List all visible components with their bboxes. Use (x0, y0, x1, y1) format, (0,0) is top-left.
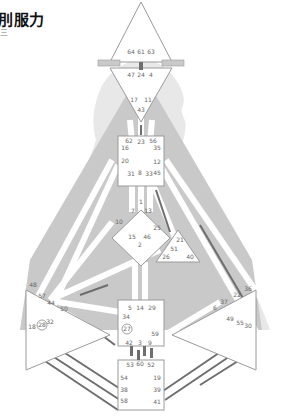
gate-3: 3 (138, 339, 142, 346)
gate-54: 54 (120, 374, 128, 381)
gate-60: 60 (136, 360, 144, 367)
gate-29: 29 (148, 304, 156, 311)
gate-10: 10 (115, 218, 123, 225)
head-ajna-bridge-right (162, 60, 184, 66)
head-ajna-bridge-left (98, 60, 120, 66)
gate-42: 42 (125, 339, 133, 346)
gate-2: 2 (138, 241, 142, 248)
gate-36: 36 (244, 285, 252, 292)
gate-52: 52 (147, 361, 155, 368)
gate-48: 48 (29, 281, 37, 288)
gate-12: 12 (153, 158, 161, 165)
gate-46: 46 (143, 233, 151, 240)
gate-14: 14 (136, 304, 144, 311)
gate-27: 27 (123, 325, 131, 332)
gate-41: 41 (153, 398, 161, 405)
gate-39: 39 (153, 386, 161, 393)
gate-31: 31 (127, 170, 135, 177)
gate-40: 40 (186, 253, 194, 260)
gate-34: 34 (122, 313, 130, 320)
gate-50: 50 (60, 305, 68, 312)
gate-bar (139, 62, 143, 70)
gate-8: 8 (138, 169, 142, 176)
gate-4: 4 (149, 71, 153, 78)
gate-57: 57 (38, 292, 46, 299)
gate-1: 1 (139, 198, 143, 205)
gate-59: 59 (151, 330, 159, 337)
gate-16: 16 (121, 144, 129, 151)
gate-18: 18 (28, 323, 36, 330)
gate-26: 26 (162, 253, 170, 260)
gate-61: 61 (137, 48, 145, 55)
gate-43: 43 (137, 106, 145, 113)
gate-5: 5 (128, 304, 132, 311)
gate-23: 23 (137, 138, 145, 145)
gate-63: 63 (147, 48, 155, 55)
gate-22: 22 (233, 291, 241, 298)
gate-20: 20 (121, 157, 129, 164)
gate-49: 49 (226, 315, 234, 322)
gate-6: 6 (213, 304, 217, 311)
gate-15: 15 (128, 233, 136, 240)
gate-64: 64 (127, 48, 135, 55)
bodygraph: 64 61 63 47 24 4 17 11 43 62 23 56 16 35… (0, 0, 282, 418)
gate-33: 33 (145, 170, 153, 177)
gate-62: 62 (125, 137, 133, 144)
sacral-root-bars (130, 346, 153, 360)
gate-37: 37 (220, 298, 228, 305)
gate-11: 11 (144, 96, 152, 103)
gate-19: 19 (153, 374, 161, 381)
gate-30: 30 (244, 322, 252, 329)
gate-51: 51 (170, 245, 178, 252)
gate-24: 24 (137, 71, 145, 78)
gate-25: 25 (153, 224, 161, 231)
gate-21: 21 (176, 236, 184, 243)
gate-53: 53 (126, 361, 134, 368)
gate-9: 9 (148, 339, 152, 346)
gate-7: 7 (131, 207, 135, 214)
gate-35: 35 (153, 144, 161, 151)
gate-55: 55 (236, 319, 244, 326)
gate-56: 56 (149, 137, 157, 144)
gate-28: 28 (38, 321, 46, 328)
gate-32: 32 (46, 318, 54, 325)
gate-38: 38 (120, 386, 128, 393)
gate-17: 17 (130, 96, 138, 103)
gate-47: 47 (127, 71, 135, 78)
gate-58: 58 (120, 397, 128, 404)
gate-13: 13 (144, 207, 152, 214)
gate-45: 45 (153, 169, 161, 176)
gate-44: 44 (47, 299, 55, 306)
